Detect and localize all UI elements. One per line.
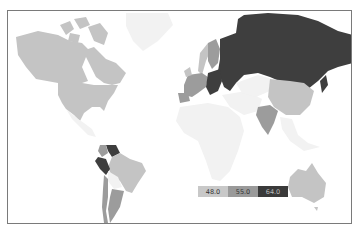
region-eastern-europe[interactable] — [206, 69, 222, 95]
region-usa[interactable] — [58, 83, 118, 121]
region-colombia[interactable] — [98, 145, 108, 157]
legend-item-low: 48.0 — [198, 186, 228, 197]
region-argentina[interactable] — [108, 189, 124, 223]
legend-item-mid: 55.0 — [228, 186, 258, 197]
region-iberia[interactable] — [178, 93, 190, 103]
region-africa[interactable] — [176, 103, 244, 181]
color-legend: 48.0 55.0 64.0 — [198, 186, 288, 197]
world-map[interactable] — [8, 11, 352, 224]
region-greenland[interactable] — [126, 13, 173, 51]
region-tasmania[interactable] — [314, 207, 318, 211]
region-sweden-finland[interactable] — [208, 39, 220, 69]
map-frame: 48.0 55.0 64.0 — [7, 10, 352, 224]
region-chile[interactable] — [102, 175, 108, 223]
region-peru[interactable] — [95, 157, 110, 175]
region-russia[interactable] — [218, 13, 352, 91]
region-india[interactable] — [256, 105, 278, 135]
region-australia[interactable] — [288, 163, 326, 203]
legend-item-high: 64.0 — [258, 186, 288, 197]
region-southeast-asia[interactable] — [280, 117, 320, 151]
